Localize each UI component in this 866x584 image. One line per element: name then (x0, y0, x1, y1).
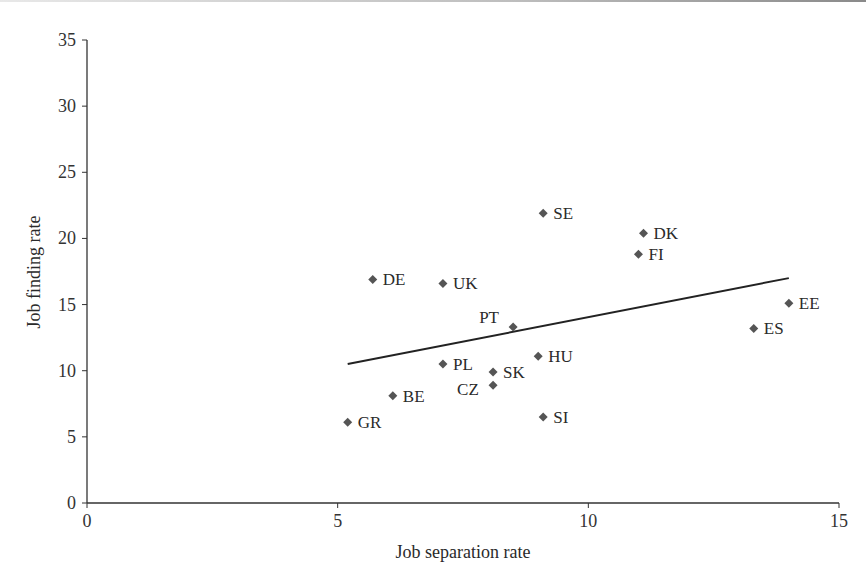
data-point-gr: GR (343, 413, 382, 432)
y-tick-label: 0 (67, 493, 76, 513)
y-tick-label: 35 (58, 30, 76, 50)
point-label: SE (553, 204, 573, 223)
point-label: SK (503, 363, 525, 382)
diamond-marker-icon (489, 381, 498, 390)
y-tick-label: 5 (67, 427, 76, 447)
point-label: CZ (457, 380, 479, 399)
diamond-marker-icon (539, 209, 548, 218)
point-label: DE (383, 270, 406, 289)
point-label: HU (548, 347, 573, 366)
point-label: ES (764, 319, 784, 338)
point-label: SI (553, 408, 568, 427)
data-point-fi: FI (634, 245, 664, 264)
point-label: BE (403, 387, 425, 406)
y-tick-label: 10 (58, 361, 76, 381)
diamond-marker-icon (534, 352, 543, 361)
point-label: PL (453, 355, 473, 374)
diamond-marker-icon (438, 360, 447, 369)
diamond-marker-icon (749, 324, 758, 333)
diamond-marker-icon (388, 391, 397, 400)
point-label: UK (453, 274, 478, 293)
diamond-marker-icon (634, 250, 643, 259)
y-tick-label: 25 (58, 162, 76, 182)
point-label: FI (648, 245, 663, 264)
point-label: EE (799, 294, 820, 313)
data-point-es: ES (749, 319, 783, 338)
data-point-pt: PT (479, 308, 518, 332)
diamond-marker-icon (784, 299, 793, 308)
data-point-ee: EE (784, 294, 819, 313)
data-point-hu: HU (534, 347, 573, 366)
x-axis-title: Job separation rate (396, 542, 531, 562)
diamond-marker-icon (489, 368, 498, 377)
y-tick-label: 30 (58, 96, 76, 116)
x-tick-label: 10 (579, 511, 597, 531)
data-point-sk: SK (489, 363, 526, 382)
x-tick-label: 0 (83, 511, 92, 531)
diamond-marker-icon (368, 275, 377, 284)
data-point-pl: PL (438, 355, 472, 374)
diamond-marker-icon (639, 229, 648, 238)
data-point-se: SE (539, 204, 573, 223)
diamond-marker-icon (343, 418, 352, 427)
scatter-chart: 05101520253035051015 GRBEDEUKPTPLSKCZHUS… (0, 0, 866, 584)
x-tick-label: 5 (333, 511, 342, 531)
diamond-marker-icon (539, 413, 548, 422)
point-label: DK (653, 224, 678, 243)
diamond-marker-icon (438, 279, 447, 288)
data-point-de: DE (368, 270, 405, 289)
y-tick-label: 15 (58, 295, 76, 315)
diamond-marker-icon (509, 323, 518, 332)
y-tick-label: 20 (58, 228, 76, 248)
data-point-dk: DK (639, 224, 679, 243)
point-label: PT (479, 308, 499, 327)
y-axis-title: Job finding rate (24, 216, 44, 329)
data-point-cz: CZ (457, 380, 498, 399)
point-label: GR (358, 413, 382, 432)
data-point-be: BE (388, 387, 424, 406)
data-point-si: SI (539, 408, 569, 427)
x-tick-label: 15 (830, 511, 848, 531)
data-point-uk: UK (438, 274, 478, 293)
